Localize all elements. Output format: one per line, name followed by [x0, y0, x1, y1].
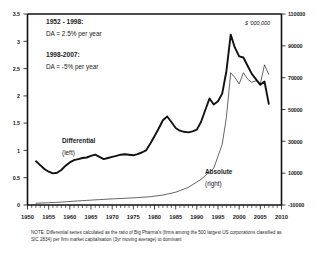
right-tick-label-4: 70000: [288, 75, 303, 81]
right-tick-label-5: 90000: [288, 43, 303, 49]
right-tick-label-6: 110000: [288, 11, 305, 17]
x-tick-label-4: 1970: [106, 214, 119, 220]
left-tick-label-1: 0.5: [13, 175, 20, 181]
series-axis-differential: (left): [62, 149, 75, 157]
series-axis-absolute: (right): [205, 180, 222, 188]
left-tick-label-4: 2: [17, 93, 20, 99]
left-tick-label-6: 3: [17, 39, 20, 45]
series-label-absolute: Absolute: [205, 168, 233, 175]
annotation-period1-body: DA = 2.5% per year: [46, 30, 102, 38]
annotation-period1-title: 1952 - 1998:: [46, 18, 83, 25]
x-tick-label-0: 1950: [21, 214, 34, 220]
left-tick-label-5: 2.5: [13, 66, 20, 72]
right-tick-label-3: 50000: [288, 107, 303, 113]
annotation-period2-title: 1998-2007:: [46, 51, 80, 58]
right-tick-label-1: 10000: [288, 170, 303, 176]
chart-canvas: 3.5 3 2.5 2 1.5 1 0.5 0 110000 90000 700…: [0, 0, 316, 254]
footnote-text: NOTE: Differential series calculated as …: [31, 230, 283, 244]
left-tick-label-2: 1: [17, 148, 20, 154]
x-tick-label-9: 1995: [212, 214, 226, 220]
x-tick-label-5: 1975: [127, 214, 141, 220]
left-tick-label-0: 0: [17, 202, 20, 208]
x-tick-label-12: 2010: [275, 214, 288, 220]
series-line-absolute: [36, 65, 269, 203]
x-tick-label-2: 1960: [63, 214, 76, 220]
left-tick-label-3: 1.5: [13, 120, 20, 126]
chart-figure: 3.5 3 2.5 2 1.5 1 0.5 0 110000 90000 700…: [0, 0, 316, 254]
unit-label: $ '000,000: [244, 20, 270, 26]
x-tick-label-10: 2000: [233, 214, 246, 220]
footnote-container: NOTE: Differential series calculated as …: [31, 230, 283, 254]
annotation-period2-body: DA = -5% per year: [46, 63, 99, 71]
x-tick-label-7: 1985: [169, 214, 183, 220]
x-tick-label-6: 1980: [148, 214, 161, 220]
right-tick-label-2: 30000: [288, 139, 303, 145]
x-tick-label-1: 1955: [42, 214, 56, 220]
left-tick-label-7: 3.5: [13, 11, 20, 17]
x-tick-label-8: 1990: [190, 214, 203, 220]
series-label-differential: Differential: [62, 137, 96, 144]
x-tick-label-11: 2005: [254, 214, 268, 220]
x-tick-label-3: 1965: [85, 214, 99, 220]
right-tick-label-0: -10000: [288, 202, 304, 208]
